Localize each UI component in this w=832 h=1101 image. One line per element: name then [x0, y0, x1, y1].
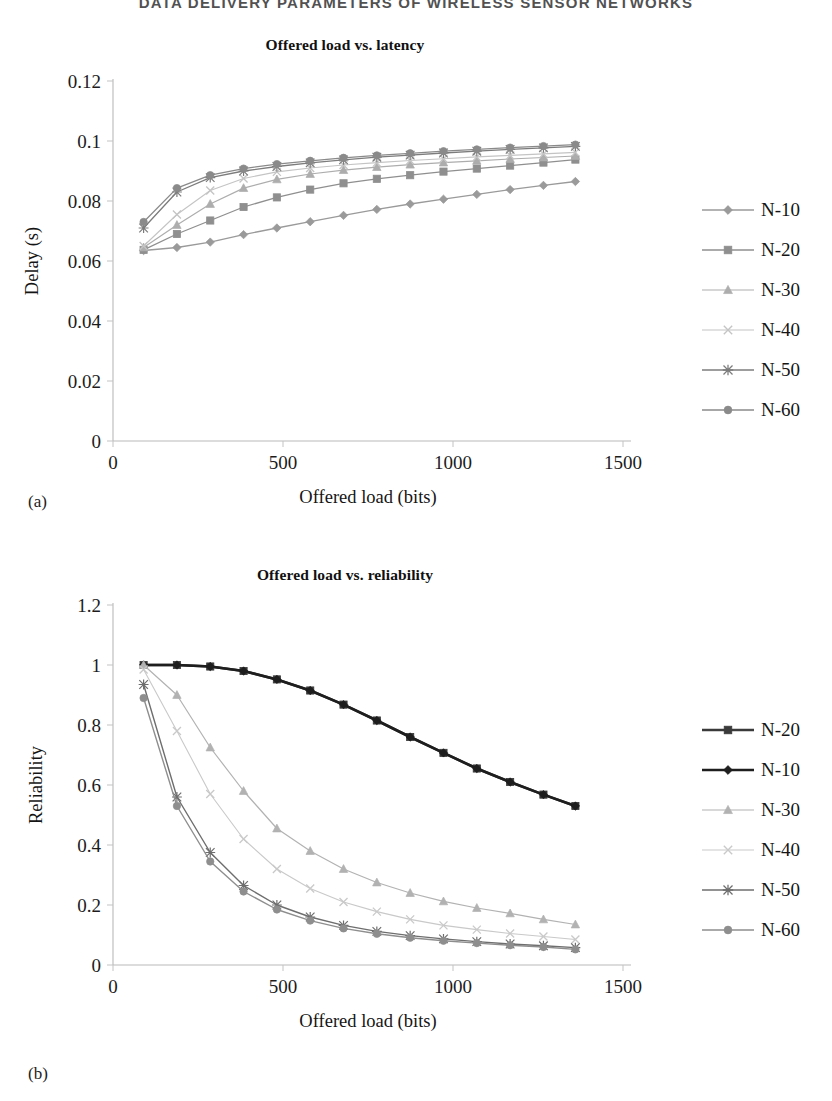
- marker-square: [724, 246, 732, 254]
- data-point-marker: [306, 218, 314, 226]
- data-point-marker: [273, 194, 280, 201]
- legend-label: N-40: [761, 839, 800, 861]
- marker-diamond: [406, 200, 414, 208]
- data-point-marker: [239, 230, 247, 238]
- x-tick-label: 1500: [604, 452, 642, 473]
- y-tick-label: 0.02: [68, 371, 101, 392]
- marker-circle: [340, 154, 347, 161]
- marker-cross: [240, 835, 248, 843]
- data-point-marker: [340, 180, 347, 187]
- data-point-marker: [440, 168, 447, 175]
- marker-circle: [724, 406, 732, 414]
- data-point-marker: [307, 917, 314, 924]
- legend-item-n-50: N-50: [700, 870, 800, 910]
- data-point-marker: [572, 946, 579, 953]
- legend-label: N-60: [761, 919, 800, 941]
- data-point-marker: [206, 187, 214, 195]
- marker-circle: [406, 150, 413, 157]
- figure-a: Offered load vs. latency 00.020.040.060.…: [0, 22, 832, 522]
- x-axis-title: Offered load (bits): [299, 1011, 436, 1032]
- marker-circle: [373, 930, 380, 937]
- data-point-marker: [307, 157, 314, 164]
- data-point-marker: [240, 888, 247, 895]
- data-point-marker: [273, 224, 281, 232]
- marker-cross: [206, 187, 214, 195]
- data-point-marker: [240, 203, 247, 210]
- data-point-marker: [307, 186, 314, 193]
- data-point-marker: [539, 181, 547, 189]
- legend-label: N-60: [761, 399, 800, 421]
- marker-circle: [724, 926, 732, 934]
- chart-b-legend: N-20N-10N-30N-40N-50N-60: [700, 710, 800, 950]
- data-point-marker: [173, 211, 181, 219]
- data-point-marker: [724, 206, 733, 215]
- data-point-marker: [306, 885, 314, 893]
- legend-item-n-10: N-10: [700, 750, 800, 790]
- data-point-marker: [473, 190, 481, 198]
- chart-b-svg: 00.20.40.60.811.2050010001500Offered loa…: [0, 556, 700, 1056]
- marker-circle: [207, 858, 214, 865]
- marker-circle: [440, 937, 447, 944]
- figure-page: DATA DELIVERY PARAMETERS OF WIRELESS SEN…: [0, 0, 832, 1101]
- data-point-marker: [206, 790, 214, 798]
- series-n-40: [140, 666, 580, 944]
- marker-square: [473, 165, 480, 172]
- series-line: [144, 156, 576, 248]
- marker-diamond: [724, 206, 733, 215]
- series-n-50: [139, 680, 581, 953]
- data-point-marker: [140, 218, 147, 225]
- y-tick-label: 0.08: [68, 191, 101, 212]
- marker-star: [723, 885, 733, 895]
- y-tick-label: 0.06: [68, 251, 101, 272]
- data-point-marker: [406, 200, 414, 208]
- data-point-marker: [173, 243, 181, 251]
- legend-item-n-40: N-40: [700, 310, 800, 350]
- x-tick-label: 500: [269, 452, 298, 473]
- y-axis-title: Reliability: [26, 745, 46, 824]
- marker-circle: [540, 142, 547, 149]
- marker-square: [507, 162, 514, 169]
- data-point-marker: [406, 150, 413, 157]
- marker-circle: [473, 146, 480, 153]
- y-tick-label: 1: [92, 655, 102, 676]
- data-point-marker: [206, 238, 214, 246]
- marker-circle: [572, 141, 579, 148]
- data-point-marker: [273, 160, 280, 167]
- legend-swatch-cross-icon: [700, 841, 756, 859]
- marker-square: [407, 172, 414, 179]
- data-point-marker: [540, 142, 547, 149]
- series-line: [144, 665, 576, 925]
- marker-cross: [173, 211, 181, 219]
- marker-circle: [572, 946, 579, 953]
- legend-swatch-square-icon: [700, 721, 756, 739]
- data-point-marker: [724, 766, 733, 775]
- y-tick-label: 0.4: [77, 835, 101, 856]
- marker-triangle: [306, 847, 314, 855]
- marker-cross: [206, 790, 214, 798]
- data-point-marker: [724, 726, 732, 734]
- marker-star: [723, 365, 733, 375]
- marker-square: [207, 217, 214, 224]
- marker-circle: [440, 148, 447, 155]
- data-point-marker: [440, 148, 447, 155]
- chart-a-legend: N-10N-20N-30N-40N-50N-60: [700, 190, 800, 430]
- data-point-marker: [571, 177, 579, 185]
- legend-label: N-50: [761, 879, 800, 901]
- marker-diamond: [539, 181, 547, 189]
- legend-label: N-30: [761, 799, 800, 821]
- legend-item-n-30: N-30: [700, 790, 800, 830]
- data-point-marker: [373, 930, 380, 937]
- legend-item-n-20: N-20: [700, 710, 800, 750]
- x-axis-title: Offered load (bits): [299, 487, 436, 508]
- data-point-marker: [406, 934, 413, 941]
- marker-circle: [273, 906, 280, 913]
- marker-triangle: [339, 865, 347, 873]
- marker-star: [139, 680, 149, 690]
- data-point-marker: [373, 878, 381, 886]
- marker-circle: [207, 172, 214, 179]
- legend-swatch-diamond-icon: [700, 761, 756, 779]
- data-point-marker: [373, 175, 380, 182]
- legend-label: N-50: [761, 359, 800, 381]
- series-n-10: [139, 661, 579, 810]
- marker-circle: [540, 943, 547, 950]
